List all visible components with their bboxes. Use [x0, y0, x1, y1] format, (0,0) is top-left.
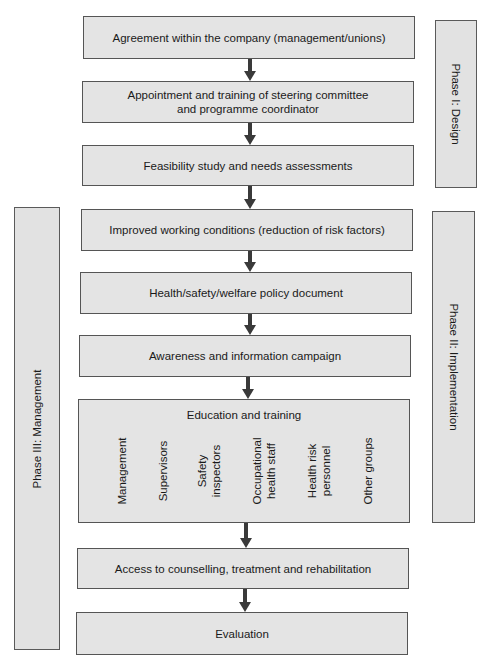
phase-design-label: Phase I: Design — [450, 63, 462, 144]
step-education-training: Education and training Management Superv… — [78, 399, 410, 523]
arrow-down-icon — [244, 251, 256, 272]
phase-implementation-label: Phase II: Implementation — [448, 303, 460, 430]
education-group-supervisors: Supervisors — [143, 430, 183, 512]
education-group-health-risk: Health risk personnel — [299, 430, 339, 512]
phase-management-label: Phase III: Management — [31, 369, 43, 488]
arrow-down-icon — [244, 59, 256, 81]
step-counselling: Access to counselling, treatment and reh… — [77, 548, 409, 589]
step-policy-document: Health/safety/welfare policy document — [80, 272, 412, 314]
step-label: Agreement within the company (management… — [113, 31, 386, 45]
step-feasibility: Feasibility study and needs assessments — [82, 145, 414, 186]
arrow-down-icon — [244, 186, 256, 209]
arrow-down-icon — [239, 589, 251, 612]
step-label: Access to counselling, treatment and reh… — [115, 562, 371, 576]
phase-implementation-bar: Phase II: Implementation — [432, 211, 475, 523]
step-evaluation: Evaluation — [76, 612, 408, 655]
education-group-other: Other groups — [348, 430, 388, 512]
step-label: Awareness and information campaign — [149, 349, 341, 363]
step-agreement: Agreement within the company (management… — [83, 16, 415, 59]
step-working-conditions: Improved working conditions (reduction o… — [81, 209, 413, 251]
education-group-occupational-health: Occupational health staff — [244, 430, 284, 512]
step-appointment: Appointment and training of steering com… — [82, 81, 414, 123]
step-label: Appointment and training of steering com… — [123, 88, 373, 116]
step-label: Feasibility study and needs assessments — [143, 159, 352, 173]
education-title: Education and training — [79, 408, 409, 422]
arrow-down-icon — [240, 523, 252, 548]
arrow-down-icon — [242, 377, 254, 399]
step-label: Evaluation — [215, 627, 269, 641]
phase-management-bar: Phase III: Management — [14, 207, 60, 650]
arrow-down-icon — [244, 314, 256, 335]
step-awareness-campaign: Awareness and information campaign — [79, 335, 411, 377]
phase-design-bar: Phase I: Design — [435, 20, 477, 188]
step-label: Health/safety/welfare policy document — [149, 286, 343, 300]
arrow-down-icon — [244, 123, 256, 145]
education-group-safety-inspectors: Safety inspectors — [189, 430, 229, 512]
step-label: Improved working conditions (reduction o… — [109, 223, 384, 237]
education-group-management: Management — [102, 430, 142, 512]
